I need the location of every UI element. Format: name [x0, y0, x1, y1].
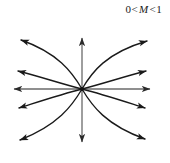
trajectory-lower-left-diagonal [20, 89, 82, 140]
phase-portrait-figure: 0<M<1 [0, 0, 170, 163]
trajectory-upper-left-diagonal [21, 40, 82, 89]
trajectory-upper-right-diagonal [82, 41, 147, 89]
phase-portrait-diagram [0, 0, 170, 163]
trajectory-lower-right-diagonal [82, 89, 145, 139]
upper-bound-value: 1 [156, 3, 162, 15]
less-than-left-symbol: < [131, 3, 138, 15]
trajectory-lower-right-shallow [82, 89, 145, 108]
trajectory-upper-right-shallow [82, 71, 146, 89]
parameter-range-label: 0<M<1 [125, 3, 162, 15]
parameter-variable-m: M [139, 3, 149, 15]
equilibrium-node [80, 87, 84, 91]
trajectory-lower-left-shallow [19, 89, 82, 108]
